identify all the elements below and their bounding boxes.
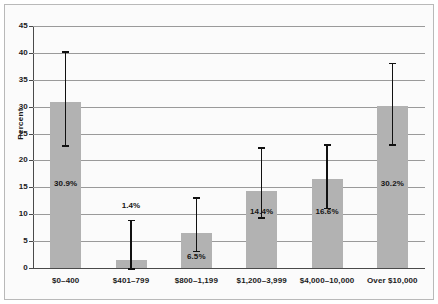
error-bar-line (392, 63, 394, 145)
gridline (33, 241, 425, 242)
error-bar-line (130, 220, 132, 268)
y-axis-tick-label: 40 (8, 48, 28, 57)
y-axis-tick-label: 35 (8, 75, 28, 84)
error-bar-line (65, 51, 67, 145)
gridline (33, 80, 425, 81)
error-bar-cap-upper (62, 51, 69, 53)
chart-figure: Percent 051015202530354045 30.9%1.4%6.5%… (0, 0, 438, 304)
y-axis-tick-label: 20 (8, 155, 28, 164)
y-axis-tick-label: 10 (8, 209, 28, 218)
gridline (33, 26, 425, 27)
error-bar-cap-upper (389, 63, 396, 65)
gridline (33, 268, 425, 269)
y-axis-tick-label: 0 (8, 263, 28, 272)
error-bar-cap-upper (193, 197, 200, 199)
gridline (33, 160, 425, 161)
error-bar-cap-upper (128, 220, 135, 222)
gridline (33, 214, 425, 215)
error-bar-cap-lower (258, 217, 265, 219)
bar-value-label: 6.5% (173, 252, 219, 261)
bar-value-label: 16.6% (304, 207, 350, 216)
y-axis-tick-label: 45 (8, 21, 28, 30)
bar-value-label: 30.2% (369, 179, 415, 188)
bar-value-label: 30.9% (43, 179, 89, 188)
gridline (33, 107, 425, 108)
gridline (33, 134, 425, 135)
error-bar-line (326, 144, 328, 207)
error-bar-cap-upper (258, 147, 265, 149)
gridline (33, 53, 425, 54)
error-bar-cap-lower (389, 144, 396, 146)
error-bar-cap-lower (62, 145, 69, 147)
y-axis-tick-label: 25 (8, 129, 28, 138)
y-axis-tick-label: 30 (8, 102, 28, 111)
plot-area: 30.9%1.4%6.5%14.4%16.6%30.2% (33, 26, 425, 268)
error-bar-cap-upper (324, 144, 331, 146)
y-axis-tick-label: 15 (8, 182, 28, 191)
error-bar-cap-lower (128, 268, 135, 270)
y-axis-tick-label: 5 (8, 236, 28, 245)
x-axis-category-label: Over $10,000 (348, 276, 437, 285)
gridline (33, 187, 425, 188)
bar-value-label: 1.4% (108, 201, 154, 210)
error-bar-line (196, 197, 198, 251)
bar-value-label: 14.4% (239, 207, 285, 216)
